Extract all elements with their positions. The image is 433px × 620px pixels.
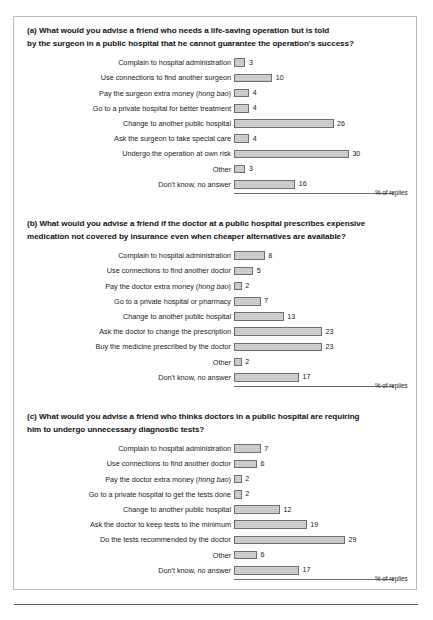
bar-row-label: Use connections to find another surgeon [14, 73, 231, 82]
panel-a-axis-caption: % of replies [375, 189, 408, 196]
bar-zone: 29 [234, 532, 418, 547]
bar-value-label: 19 [310, 521, 318, 529]
bar-value-label: 4 [253, 104, 257, 112]
bar-zone: 23 [234, 339, 418, 354]
bar [234, 327, 322, 336]
bar-row-label: Use connections to find another doctor [14, 266, 231, 275]
figure-page: (a) What would you advise a friend who n… [0, 0, 433, 620]
bar [234, 251, 265, 260]
bar-row-label: Change to another public hospital [14, 119, 231, 128]
panel-b-chart: Complain to hospital administration8Use … [14, 248, 418, 398]
page-bottom-rule [14, 604, 418, 605]
bar-row: Ask the doctor to change the prescriptio… [14, 324, 418, 339]
bar-row: Pay the doctor extra money (hong bao)2 [14, 279, 418, 294]
bar-zone: 26 [234, 116, 418, 131]
bar-row: Pay the surgeon extra money (hong bao)4 [14, 86, 418, 101]
bar-value-label: 7 [264, 445, 268, 453]
bar-row-label: Complain to hospital administration [14, 251, 231, 260]
bar-row-label: Other [14, 358, 231, 367]
bar-row: Change to another public hospital13 [14, 309, 418, 324]
panel-a-title: (a) What would you advise a friend who n… [27, 25, 411, 50]
bar-zone: 12 [234, 502, 418, 517]
bar-row-label: Don't know, no answer [14, 373, 231, 382]
panel-a-axis-line [234, 193, 394, 194]
bar-zone: 2 [234, 355, 418, 370]
bar-row-label: Don't know, no answer [14, 566, 231, 575]
bar [234, 58, 245, 67]
panel-c-title-line2: him to undergo unnecessary diagnostic te… [27, 425, 204, 434]
bar [234, 536, 345, 545]
bar-value-label: 23 [326, 343, 334, 351]
bar-row-label: Pay the doctor extra money (hong bao) [14, 282, 231, 291]
bar-value-label: 8 [268, 252, 272, 260]
bar-row: Don't know, no answer16 [14, 177, 418, 192]
bar-value-label: 10 [276, 74, 284, 82]
bar-row: Do the tests recommended by the doctor29 [14, 532, 418, 547]
bar-row: Change to another public hospital26 [14, 116, 418, 131]
bar-zone: 6 [234, 456, 418, 471]
bar [234, 282, 242, 291]
bar-row: Go to a private hospital for better trea… [14, 101, 418, 116]
bar-zone: 4 [234, 86, 418, 101]
bar-zone: 2 [234, 487, 418, 502]
bar-value-label: 7 [264, 297, 268, 305]
bar-zone: 4 [234, 131, 418, 146]
bar-zone: 4 [234, 101, 418, 116]
bar-row-label: Undergo the operation at own risk [14, 149, 231, 158]
bar-row: Other2 [14, 355, 418, 370]
bar [234, 150, 349, 159]
bar-value-label: 4 [253, 89, 257, 97]
panel-a-chart: Complain to hospital administration3Use … [14, 55, 418, 205]
bar-value-label: 3 [249, 59, 253, 67]
bar-value-label: 5 [257, 267, 261, 275]
bar [234, 490, 242, 499]
bar-row-label: Complain to hospital administration [14, 444, 231, 453]
bar-value-label: 3 [249, 165, 253, 173]
bar-zone: 5 [234, 263, 418, 278]
panel-c-title-line1: (c) What would you advise a friend who t… [27, 412, 359, 421]
bar-value-label: 2 [245, 490, 249, 498]
chart-panel-c: (c) What would you advise a friend who t… [14, 411, 418, 591]
bar-zone: 7 [234, 441, 418, 456]
bar-zone: 13 [234, 309, 418, 324]
bar-value-label: 6 [260, 551, 264, 559]
panel-b-title-line1: (b) What would you advise a friend if th… [27, 219, 365, 228]
bar-row-label: Other [14, 165, 231, 174]
bar [234, 505, 280, 514]
bar-value-label: 2 [245, 282, 249, 290]
panel-b-rows: Complain to hospital administration8Use … [14, 248, 418, 385]
bar-row: Change to another public hospital12 [14, 502, 418, 517]
bar-row: Complain to hospital administration3 [14, 55, 418, 70]
bar-row: Complain to hospital administration8 [14, 248, 418, 263]
bar-row-label: Other [14, 551, 231, 560]
bar-row-label: Do the tests recommended by the doctor [14, 535, 231, 544]
bar-zone: 30 [234, 146, 418, 161]
bar [234, 165, 245, 174]
panel-a-title-line2: by the surgeon in a public hospital that… [27, 39, 354, 48]
bar-value-label: 2 [245, 358, 249, 366]
panel-a-rows: Complain to hospital administration3Use … [14, 55, 418, 192]
bar-value-label: 30 [352, 150, 360, 158]
bar-row: Buy the medicine prescribed by the docto… [14, 339, 418, 354]
bar-row: Use connections to find another doctor6 [14, 456, 418, 471]
bar-row-label: Go to a private hospital for better trea… [14, 104, 231, 113]
bar-row-label: Don't know, no answer [14, 180, 231, 189]
bar-zone: 19 [234, 517, 418, 532]
bar [234, 520, 307, 529]
bar-value-label: 17 [303, 566, 311, 574]
bar [234, 104, 249, 113]
bar-value-label: 2 [245, 475, 249, 483]
bar-row: Other3 [14, 162, 418, 177]
bar-row: Complain to hospital administration7 [14, 441, 418, 456]
panel-c-axis-line [234, 579, 394, 580]
bar-row-label: Use connections to find another doctor [14, 459, 231, 468]
bar-row-label: Go to a private hospital to get the test… [14, 490, 231, 499]
panel-b-title: (b) What would you advise a friend if th… [27, 218, 411, 243]
bar-row: Use connections to find another surgeon1… [14, 70, 418, 85]
bar-value-label: 23 [326, 328, 334, 336]
bar-row: Go to a private hospital to get the test… [14, 487, 418, 502]
bar-row-label: Buy the medicine prescribed by the docto… [14, 342, 231, 351]
bar-zone: 7 [234, 294, 418, 309]
bar-row: Other6 [14, 548, 418, 563]
bar [234, 475, 242, 484]
